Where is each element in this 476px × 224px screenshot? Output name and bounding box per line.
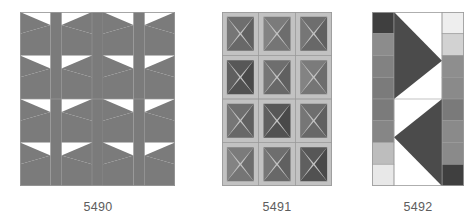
left-gradient-cell-8 — [372, 164, 394, 186]
left-gradient-cell-4 — [372, 77, 394, 99]
quilt-block-5490[interactable] — [20, 12, 175, 186]
right-gradient-cell-5 — [442, 99, 464, 121]
right-gradient-cell-4 — [442, 77, 464, 99]
right-gradient-cell-1 — [442, 12, 464, 34]
caption-5492: 5492 — [380, 200, 456, 214]
left-gradient-cell-3 — [372, 56, 394, 78]
gradient-column-arrow-block-canvas — [372, 12, 464, 186]
diagonal-cross-grid-block-canvas — [222, 12, 332, 186]
left-gradient-cell-2 — [372, 34, 394, 56]
right-gradient-cell-2 — [442, 34, 464, 56]
caption-5490: 5490 — [60, 200, 136, 214]
right-gradient-cell-3 — [442, 56, 464, 78]
quilt-block-5491[interactable] — [222, 12, 332, 186]
left-gradient-cell-6 — [372, 121, 394, 143]
right-gradient-cell-8 — [442, 164, 464, 186]
quilt-block-5492[interactable] — [372, 12, 464, 186]
caption-5491: 5491 — [239, 200, 315, 214]
left-gradient-cell-5 — [372, 99, 394, 121]
triangle-sashing-block-canvas — [20, 12, 175, 186]
right-gradient-cell-6 — [442, 121, 464, 143]
quilt-pattern-sheet: 5490 5491 5492 — [0, 0, 476, 224]
left-gradient-cell-7 — [372, 143, 394, 165]
left-gradient-cell-1 — [372, 12, 394, 34]
right-gradient-cell-7 — [442, 143, 464, 165]
